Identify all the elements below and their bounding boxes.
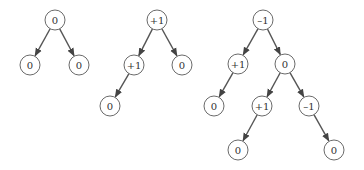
edge-arrow	[243, 115, 257, 141]
tree-node: +1	[147, 10, 167, 30]
edge-arrow	[219, 73, 233, 97]
node-label: 0	[76, 60, 82, 71]
node-label: 0	[107, 101, 113, 112]
node-label: 0	[27, 60, 33, 71]
tree-node: –1	[253, 10, 273, 30]
tree-node: 0	[324, 140, 344, 160]
tree-node: 0	[228, 140, 248, 160]
tree-node: 0	[69, 55, 89, 75]
node-label: +1	[150, 15, 165, 26]
node-label: 0	[235, 145, 241, 156]
node-label: –1	[257, 15, 268, 26]
tree-node: +1	[124, 55, 144, 75]
tree-node: +1	[252, 96, 272, 116]
node-label: 0	[179, 60, 185, 71]
node-label: +1	[127, 60, 142, 71]
edge-arrow	[162, 29, 177, 56]
tree-node: 0	[204, 96, 224, 116]
nodes-layer: 000+1+100–1+100+1–100	[20, 10, 344, 160]
tree-node: 0	[100, 96, 120, 116]
edges-layer	[35, 29, 329, 141]
tree-node: 0	[20, 55, 40, 75]
tree-node: –1	[299, 96, 319, 116]
edge-arrow	[115, 74, 129, 97]
tree-1-edges	[35, 29, 74, 56]
node-label: 0	[52, 15, 58, 26]
tree-node: 0	[172, 55, 192, 75]
tree-1: 000	[20, 10, 89, 75]
tree-node: +1	[228, 54, 248, 74]
edge-arrow	[314, 115, 329, 141]
edge-arrow	[139, 29, 153, 56]
node-label: 0	[331, 145, 337, 156]
node-label: –1	[303, 101, 314, 112]
edge-arrow	[290, 73, 304, 97]
tree-3-edges	[219, 29, 329, 141]
tree-2: +1+100	[100, 10, 192, 116]
edge-arrow	[267, 73, 280, 97]
edge-arrow	[267, 29, 280, 55]
edge-arrow	[35, 29, 50, 56]
tree-node: 0	[275, 54, 295, 74]
balance-factor-trees-diagram: 000+1+100–1+100+1–100	[0, 0, 364, 170]
edge-arrow	[243, 29, 258, 55]
edge-arrow	[60, 29, 74, 56]
tree-node: 0	[45, 10, 65, 30]
node-label: 0	[282, 59, 288, 70]
node-label: +1	[231, 59, 246, 70]
node-label: 0	[211, 101, 217, 112]
node-label: +1	[255, 101, 270, 112]
